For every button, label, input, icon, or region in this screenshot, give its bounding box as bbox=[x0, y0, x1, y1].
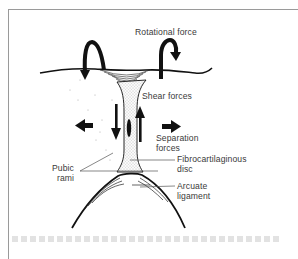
superior-pubic-line bbox=[40, 68, 212, 73]
shear-center-mark bbox=[127, 119, 131, 137]
separation-arrow-left-icon bbox=[75, 119, 93, 132]
rotation-arrow-right-icon bbox=[161, 40, 181, 79]
rotation-arrow-left-icon bbox=[80, 42, 104, 80]
bone-stipple bbox=[70, 80, 113, 161]
disc-label-line1: Fibrocartilaginous bbox=[177, 154, 247, 165]
arcuate-ligament-label-line2: ligament bbox=[177, 191, 210, 202]
shear-arrow-down-icon bbox=[111, 104, 121, 140]
pubic-rami-label-line1: Pubic bbox=[52, 163, 74, 174]
disc-label-line2: disc bbox=[177, 164, 193, 175]
rotational-force-label: Rotational force bbox=[135, 27, 197, 38]
separation-arrow-right-icon bbox=[162, 120, 181, 133]
arcuate-ligament-label-line1: Arcuate bbox=[177, 181, 207, 192]
pubic-rami-label-line2: rami bbox=[57, 173, 74, 184]
separation-forces-label-line1: Separation bbox=[156, 133, 199, 144]
separation-forces-label-line2: forces bbox=[156, 143, 180, 154]
inferior-arch bbox=[72, 174, 185, 228]
cropped-caption-text bbox=[12, 236, 280, 242]
shear-forces-label: Shear forces bbox=[142, 91, 192, 102]
